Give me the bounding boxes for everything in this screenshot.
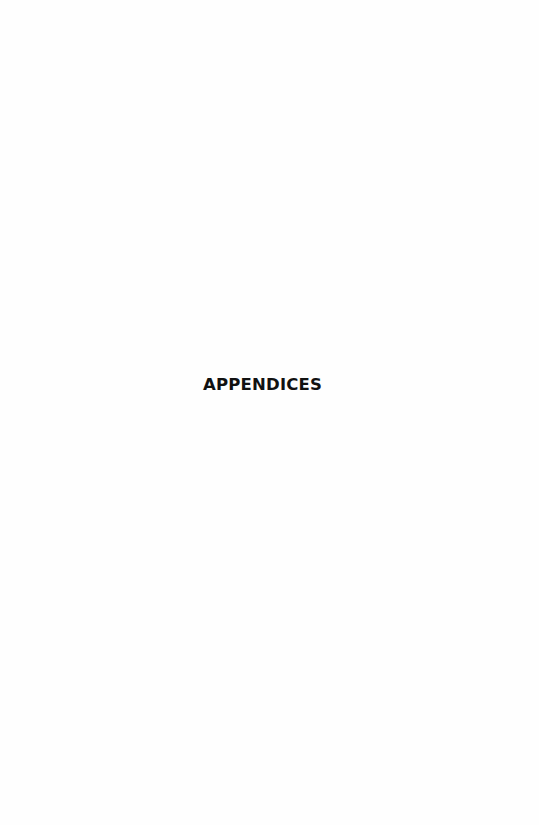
section-heading: APPENDICES (203, 374, 313, 396)
document-page: APPENDICES (0, 0, 539, 825)
